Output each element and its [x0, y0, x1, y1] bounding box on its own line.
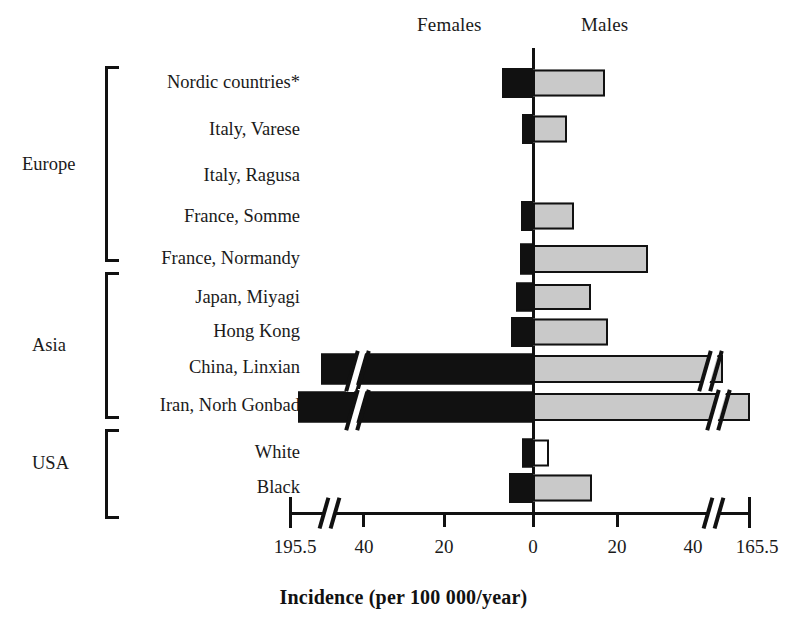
x-axis-label-0: 0 [528, 536, 538, 558]
axis-break-mask-axis-right [704, 497, 722, 529]
x-axis-label-195-5: 195.5 [274, 536, 317, 558]
axis-break-mask-iran-right [707, 389, 727, 431]
x-axis-line [289, 512, 751, 515]
group-label-usa: USA [32, 453, 69, 474]
bar-male-white [533, 440, 549, 467]
x-axis-tick-20-right [616, 512, 619, 527]
row-label-iran-norh-gonbad: Iran, Norh Gonbad [160, 395, 300, 416]
row-label-nordic-countries: Nordic countries* [167, 72, 300, 93]
axis-break-axis-right [706, 497, 726, 529]
bar-female-japan-miyagi [516, 283, 535, 312]
row-label-italy-varese: Italy, Varese [209, 119, 300, 140]
x-axis-label-20-right: 20 [608, 536, 627, 558]
x-axis-tick-165-5 [748, 497, 751, 528]
bar-male-nordic-countries [533, 70, 605, 97]
x-axis-label-20-left: 20 [435, 536, 454, 558]
incidence-bar-chart: Females Males Europe Asia USA Nordic cou… [0, 0, 807, 633]
x-axis-label-40-left: 40 [355, 536, 374, 558]
x-axis-tick-0 [532, 512, 535, 527]
row-label-japan-miyagi: Japan, Miyagi [195, 287, 300, 308]
bar-female-hong-kong [511, 317, 535, 347]
bar-male-hong-kong [533, 319, 608, 346]
bracket-usa [105, 429, 119, 519]
bar-male-france-normandy [533, 245, 648, 273]
row-label-france-somme: France, Somme [184, 206, 300, 227]
x-axis-tick-195-5 [289, 497, 292, 528]
row-label-black: Black [257, 477, 300, 498]
bracket-europe [105, 66, 119, 262]
x-axis-label-40-right: 40 [684, 536, 703, 558]
plot-area: 195.5 40 20 0 20 40 165.5 Incidence (per… [0, 0, 807, 633]
bar-female-iran-norh-gonbad [298, 392, 535, 423]
bar-male-iran-norh-gonbad [533, 393, 750, 421]
row-label-france-normandy: France, Normandy [161, 248, 300, 269]
bar-female-nordic-countries [502, 68, 535, 98]
x-axis-title: Incidence (per 100 000/year) [0, 586, 807, 609]
x-axis-tick-20-left [443, 512, 446, 527]
zero-axis-line [532, 48, 535, 514]
bar-female-black [509, 473, 535, 503]
bar-female-white [522, 439, 535, 468]
axis-break-china-right [703, 350, 723, 392]
x-axis-tick-40-left [362, 512, 365, 527]
bar-male-black [533, 475, 592, 502]
axis-break-iran-left [350, 389, 370, 431]
bar-female-italy-varese [522, 114, 535, 144]
bar-female-france-normandy [520, 244, 535, 275]
x-axis-label-165-5: 165.5 [736, 536, 779, 558]
axis-break-iran-right [711, 389, 731, 431]
row-label-hong-kong: Hong Kong [213, 321, 300, 342]
axis-break-axis-left [322, 497, 342, 529]
axis-break-china-left [350, 350, 370, 392]
bar-male-japan-miyagi [533, 284, 591, 310]
bar-male-china-linxian [533, 355, 723, 383]
column-header-females: Females [417, 14, 482, 36]
axis-break-mask-iran-left [346, 389, 366, 431]
group-label-europe: Europe [22, 154, 75, 175]
bar-male-france-somme [533, 203, 574, 230]
bar-female-france-somme [521, 201, 535, 231]
axis-break-mask-china-right [699, 350, 719, 392]
row-label-china-linxian: China, Linxian [189, 357, 300, 378]
row-label-white: White [255, 442, 300, 463]
axis-break-mask-axis-left [320, 497, 338, 529]
group-label-asia: Asia [32, 335, 66, 356]
bracket-asia [105, 272, 119, 419]
column-header-males: Males [581, 14, 628, 36]
bar-male-italy-varese [533, 116, 567, 143]
axis-break-mask-china-left [346, 350, 366, 392]
row-label-italy-ragusa: Italy, Ragusa [204, 165, 300, 186]
bar-female-china-linxian [321, 354, 535, 385]
